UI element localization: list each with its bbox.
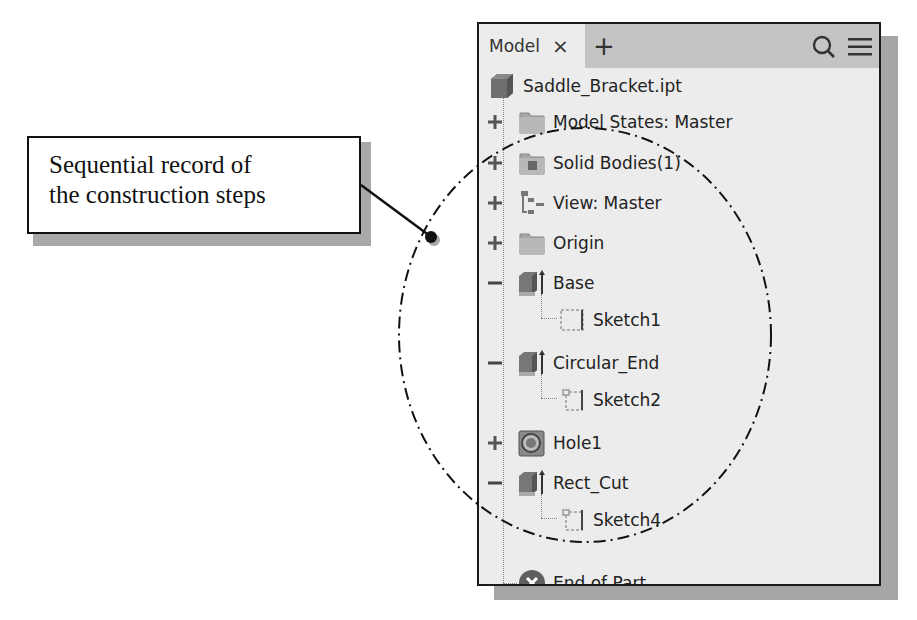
tree-item-label: View: Master [553, 193, 662, 213]
collapse-icon[interactable] [487, 275, 503, 291]
tree-root-label: Saddle_Bracket.ipt [523, 76, 682, 96]
callout-leader-line [361, 185, 430, 236]
tree-item-label: End of Part [553, 573, 646, 586]
sketch-icon [557, 305, 587, 335]
sketch-icon [557, 505, 587, 535]
collapse-icon[interactable] [487, 475, 503, 491]
callout-line-1: Sequential record of [49, 150, 359, 180]
view-rep-icon [517, 188, 547, 218]
expand-icon[interactable] [487, 235, 503, 251]
expand-icon[interactable] [487, 435, 503, 451]
model-browser-panel: Model × + Saddle_Bracket.ipt [477, 22, 881, 586]
callout-line-2: the construction steps [49, 180, 359, 210]
tree-connector [541, 518, 557, 519]
extrude-icon [517, 348, 547, 378]
tree-item-end-of-part[interactable]: End of Part [517, 565, 646, 586]
tree-item-label: Model States: Master [553, 112, 733, 132]
tree-item-rect-cut[interactable]: Rect_Cut [487, 465, 628, 501]
solid-bodies-folder-icon [517, 148, 547, 178]
hamburger-menu-icon[interactable] [848, 36, 872, 58]
part-icon [487, 71, 517, 101]
leader-dot [425, 231, 437, 243]
tree-connector [541, 318, 557, 319]
folder-icon [517, 228, 547, 258]
close-icon[interactable]: × [552, 36, 569, 56]
tree-item-model-states[interactable]: Model States: Master [487, 104, 733, 140]
tree-item-label: Origin [553, 233, 604, 253]
tab-model-label: Model [489, 36, 540, 56]
expand-icon[interactable] [487, 155, 503, 171]
tree-item-solid-bodies[interactable]: Solid Bodies(1) [487, 145, 681, 181]
hole-icon [517, 428, 547, 458]
tree-connector [541, 398, 557, 399]
end-of-part-icon [517, 568, 547, 586]
expand-icon[interactable] [487, 195, 503, 211]
collapse-icon[interactable] [487, 355, 503, 371]
tree-connector [541, 494, 542, 518]
tree-item-sketch1[interactable]: Sketch1 [557, 302, 661, 338]
tree-item-label: Sketch4 [593, 510, 661, 530]
tree-item-label: Rect_Cut [553, 473, 628, 493]
browser-tabbar: Model × + [479, 24, 879, 68]
tree-item-sketch2[interactable]: Sketch2 [557, 382, 661, 418]
tree-item-label: Hole1 [553, 433, 602, 453]
tree-item-view-master[interactable]: View: Master [487, 185, 662, 221]
tree-item-label: Solid Bodies(1) [553, 153, 681, 173]
extrude-icon [517, 468, 547, 498]
tree-item-label: Base [553, 273, 594, 293]
tree-item-label: Sketch1 [593, 310, 661, 330]
model-tree: Saddle_Bracket.ipt Model States: Master … [479, 68, 879, 584]
tree-connector [541, 374, 542, 398]
sketch-icon [557, 385, 587, 415]
search-icon[interactable] [811, 34, 837, 60]
tree-item-origin[interactable]: Origin [487, 225, 604, 261]
tree-root[interactable]: Saddle_Bracket.ipt [487, 68, 682, 104]
tree-item-label: Circular_End [553, 353, 659, 373]
expand-icon[interactable] [487, 114, 503, 130]
tree-item-circular-end[interactable]: Circular_End [487, 345, 659, 381]
add-tab-button[interactable]: + [593, 30, 615, 62]
tree-connector [503, 583, 517, 584]
tree-item-sketch4[interactable]: Sketch4 [557, 502, 661, 538]
tree-item-hole1[interactable]: Hole1 [487, 425, 602, 461]
callout-box: Sequential record of the construction st… [27, 136, 361, 234]
tab-model[interactable]: Model × [479, 24, 585, 68]
leader-dot-shadow [428, 234, 440, 246]
folder-icon [517, 107, 547, 137]
tree-connector [541, 294, 542, 318]
extrude-icon [517, 268, 547, 298]
tree-item-label: Sketch2 [593, 390, 661, 410]
